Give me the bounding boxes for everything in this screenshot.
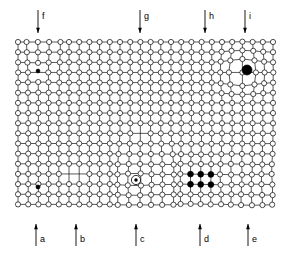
top-marker-label-h: h bbox=[209, 12, 214, 21]
lattice-atom bbox=[171, 202, 176, 207]
lattice-atom bbox=[87, 182, 92, 187]
lattice-atom bbox=[66, 50, 71, 55]
lattice-atom bbox=[218, 81, 223, 86]
lattice-atom bbox=[168, 100, 173, 105]
lattice-atom bbox=[15, 90, 20, 95]
lattice-atom bbox=[117, 141, 122, 146]
defect-large-dot-upper-right bbox=[242, 65, 252, 75]
lattice-atom bbox=[56, 131, 61, 136]
lattice-atom bbox=[148, 202, 153, 207]
lattice-atom bbox=[56, 110, 61, 115]
lattice-atom bbox=[148, 100, 153, 105]
lattice-atom bbox=[261, 59, 266, 64]
lattice-atom bbox=[260, 131, 265, 136]
lattice-atom bbox=[229, 182, 234, 187]
lattice-atom bbox=[199, 80, 204, 85]
lattice-atom bbox=[25, 60, 30, 65]
lattice-atom bbox=[229, 141, 234, 146]
lattice-atom bbox=[107, 60, 112, 65]
lattice-atom bbox=[218, 161, 223, 166]
lattice-atom bbox=[97, 192, 102, 197]
lattice-atom bbox=[219, 110, 224, 115]
lattice-atom bbox=[189, 39, 194, 44]
lattice-atom bbox=[178, 192, 183, 197]
lattice-atom bbox=[269, 162, 274, 167]
lattice-atom bbox=[87, 100, 92, 105]
lattice-atom bbox=[56, 121, 61, 126]
lattice-atom bbox=[229, 172, 234, 177]
lattice-atom bbox=[168, 110, 173, 115]
lattice-atom bbox=[171, 182, 176, 187]
lattice-atom bbox=[36, 151, 41, 156]
lattice-atom bbox=[66, 161, 71, 166]
lattice-atom bbox=[56, 182, 61, 187]
lattice-atom bbox=[179, 39, 184, 44]
lattice-atom bbox=[179, 90, 184, 95]
lattice-atom bbox=[77, 202, 82, 207]
lattice-atom bbox=[270, 131, 275, 136]
lattice-atom bbox=[26, 161, 31, 166]
lattice-atom bbox=[148, 192, 153, 197]
lattice-atom bbox=[209, 80, 214, 85]
lattice-atom bbox=[97, 90, 102, 95]
lattice-atom bbox=[16, 70, 21, 75]
lattice-atom bbox=[208, 192, 213, 197]
lattice-atom bbox=[46, 202, 51, 207]
lattice-atom bbox=[66, 110, 71, 115]
lattice-atom bbox=[58, 39, 63, 44]
lattice-atom bbox=[15, 192, 20, 197]
lattice-atom bbox=[128, 110, 133, 115]
lattice-atom bbox=[137, 202, 142, 207]
arrow-c bbox=[134, 224, 138, 246]
lattice-atom bbox=[115, 182, 120, 187]
lattice-atom bbox=[260, 100, 265, 105]
lattice-atom bbox=[36, 131, 41, 136]
lattice-atom bbox=[250, 131, 255, 136]
lattice-atom bbox=[250, 141, 255, 146]
lattice-atom bbox=[179, 110, 184, 115]
lattice-atom bbox=[97, 121, 102, 126]
lattice-atom bbox=[127, 151, 132, 156]
lattice-atom bbox=[168, 90, 173, 95]
lattice-atom bbox=[138, 50, 143, 55]
lattice-atom bbox=[66, 90, 71, 95]
lattice-atom bbox=[168, 39, 173, 44]
lattice-atom bbox=[15, 50, 20, 55]
top-marker-label-g: g bbox=[144, 12, 149, 21]
lattice-atom bbox=[188, 152, 193, 157]
lattice-atom bbox=[209, 131, 214, 136]
lattice-atom bbox=[179, 121, 184, 126]
lattice-atom bbox=[107, 39, 112, 44]
lattice-atom bbox=[46, 151, 51, 156]
lattice-atom bbox=[117, 60, 122, 65]
lattice-atom bbox=[57, 60, 62, 65]
lattice-atom bbox=[209, 162, 214, 167]
lattice-atom bbox=[250, 39, 255, 44]
lattice-atom bbox=[56, 192, 61, 197]
lattice-atom bbox=[261, 81, 266, 86]
lattice-atom bbox=[188, 192, 193, 197]
arrow-g bbox=[138, 10, 142, 33]
lattice-atom bbox=[107, 110, 112, 115]
lattice-atom bbox=[66, 202, 71, 207]
lattice-atom bbox=[57, 70, 62, 75]
lattice-atom bbox=[26, 171, 31, 176]
lattice-atom bbox=[87, 151, 92, 156]
arrow-head-a bbox=[34, 224, 38, 229]
lattice-atom bbox=[148, 80, 153, 85]
lattice-atom bbox=[46, 131, 51, 136]
lattice-atom bbox=[115, 162, 120, 167]
lattice-atom bbox=[66, 192, 71, 197]
lattice-atom bbox=[260, 162, 265, 167]
lattice-atom bbox=[77, 110, 82, 115]
lattice-atom bbox=[97, 50, 102, 55]
lattice-atom bbox=[219, 131, 224, 136]
lattice-atom bbox=[219, 141, 224, 146]
lattice-atom bbox=[138, 100, 143, 105]
lattice-atom bbox=[260, 110, 265, 115]
lattice-atom bbox=[158, 100, 163, 105]
lattice-atom bbox=[158, 80, 163, 85]
lattice-atom bbox=[158, 50, 163, 55]
lattice-atom bbox=[56, 202, 61, 207]
lattice-atom bbox=[97, 141, 102, 146]
